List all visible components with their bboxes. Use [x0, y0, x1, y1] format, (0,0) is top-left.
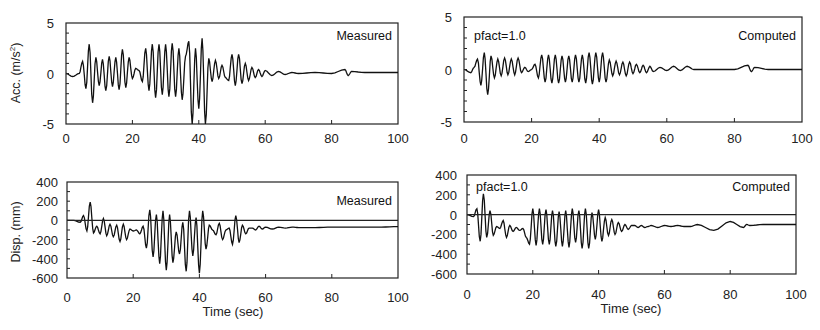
y-tick-label: 200 [435, 188, 457, 203]
series-annotation: Computed [732, 180, 790, 194]
series-annotation: Measured [336, 194, 392, 208]
x-tick-label: 40 [591, 287, 605, 302]
x-axis-label: Time (sec) [601, 301, 662, 316]
panel-computed-acceleration: 02040608010050-5 pfact=1.0 Computed [440, 10, 812, 146]
x-tick-label: 20 [125, 131, 139, 146]
y-tick-label: 0 [445, 63, 452, 78]
x-tick-label: 60 [657, 287, 671, 302]
x-tick-label: 100 [387, 290, 409, 305]
y-tick-label: 400 [435, 168, 457, 183]
y-tick-label: -5 [42, 117, 54, 132]
x-tick-label: 0 [63, 290, 70, 305]
x-tick-label: 40 [192, 290, 206, 305]
x-tick-label: 40 [192, 131, 206, 146]
x-tick-label: 60 [258, 131, 272, 146]
x-tick-label: 100 [785, 287, 807, 302]
x-tick-label: 20 [526, 287, 540, 302]
series-annotation: Computed [738, 29, 796, 43]
x-tick-label: 0 [463, 287, 470, 302]
y-tick-label: 0 [450, 208, 457, 223]
x-tick-label: 20 [126, 290, 140, 305]
y-tick-label: 400 [36, 175, 58, 190]
y-tick-label: -600 [32, 271, 58, 286]
y-tick-label: 0 [51, 213, 58, 228]
y-tick-label: -5 [440, 115, 452, 130]
x-tick-label: 60 [660, 131, 674, 146]
panel-measured-displacement: 0204060801004002000-200-400-600 Measured… [9, 175, 409, 319]
panel-computed-displacement: 0204060801004002000-200-400-600 pfact=1.… [431, 168, 807, 316]
x-tick-label: 20 [524, 131, 538, 146]
x-tick-label: 100 [387, 131, 409, 146]
x-tick-label: 80 [727, 131, 741, 146]
x-tick-label: 80 [325, 290, 339, 305]
displacement-trace [67, 202, 398, 273]
y-tick-label: -200 [431, 227, 457, 242]
x-tick-label: 0 [460, 131, 467, 146]
parameter-label: pfact=1.0 [474, 29, 526, 43]
series-annotation: Measured [336, 29, 392, 43]
figure: 02040608010050-5 Measured Acc. (m/s2) 02… [0, 0, 820, 330]
parameter-label: pfact=1.0 [476, 180, 528, 194]
acceleration-trace [464, 53, 802, 95]
y-tick-label: -400 [32, 252, 58, 267]
y-axis-label: Acc. (m/s2) [8, 43, 23, 104]
x-tick-label: 100 [791, 131, 813, 146]
x-tick-label: 60 [258, 290, 272, 305]
y-tick-label: 200 [36, 194, 58, 209]
y-tick-label: -400 [431, 247, 457, 262]
acceleration-trace [66, 38, 398, 124]
y-tick-label: 5 [445, 10, 452, 25]
displacement-trace [467, 194, 796, 249]
y-tick-label: -600 [431, 267, 457, 282]
y-tick-label: 5 [47, 16, 54, 31]
panel-measured-acceleration: 02040608010050-5 Measured Acc. (m/s2) [8, 16, 409, 146]
x-tick-label: 40 [592, 131, 606, 146]
y-tick-label: 0 [47, 67, 54, 82]
y-tick-label: -200 [32, 233, 58, 248]
y-axis-label: Disp. (mm) [9, 201, 23, 262]
x-tick-label: 80 [723, 287, 737, 302]
x-tick-label: 80 [324, 131, 338, 146]
x-tick-label: 0 [62, 131, 69, 146]
x-axis-label: Time (sec) [203, 304, 264, 319]
